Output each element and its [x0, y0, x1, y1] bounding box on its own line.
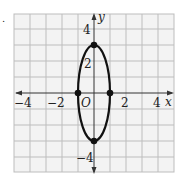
y-tick-label: 2 [84, 57, 92, 71]
item-bullet: . [2, 13, 5, 24]
x-axis-label: x [165, 95, 172, 109]
x-tick-label: −2 [47, 96, 65, 110]
vertex-bottom-point [91, 138, 98, 145]
ellipse-graph: . y x O −4 −2 2 4 4 2 [0, 0, 182, 185]
y-tick-label: −4 [76, 151, 94, 165]
x-tick-label: −4 [14, 96, 32, 110]
y-tick-label: 4 [83, 23, 91, 37]
x-tick-label: 4 [153, 96, 161, 110]
origin-label: O [81, 96, 91, 110]
vertex-top-point [91, 42, 98, 49]
y-axis-label: y [97, 10, 105, 24]
x-tick-label: 2 [121, 96, 129, 110]
covertex-right-point [107, 90, 114, 97]
